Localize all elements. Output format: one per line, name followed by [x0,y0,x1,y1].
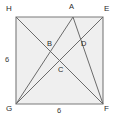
vertex-label-g: G [6,105,12,113]
vertex-label-e: E [104,5,109,13]
side-length-label-left: 6 [5,56,9,64]
point-label-a: A [69,3,74,11]
point-label-b: B [47,40,52,48]
geometry-figure: H E G F A B C D 6 6 [0,0,115,120]
vertex-label-f: F [104,105,109,113]
vertex-label-h: H [6,5,12,13]
geometry-canvas [0,0,115,120]
point-label-c: C [58,66,63,74]
side-length-label-bottom: 6 [57,107,61,115]
point-label-d: D [81,40,86,48]
